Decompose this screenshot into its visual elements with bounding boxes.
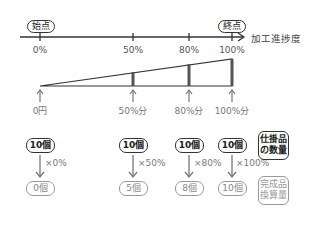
tick-label-80: 80% <box>179 45 199 55</box>
legend-wip-line1: 仕掛品 <box>260 134 287 145</box>
equivalent-units-100: 10個 <box>218 181 247 196</box>
up-arrow-icons <box>37 90 235 102</box>
cost-label-50: 50%分 <box>118 104 147 117</box>
legend-equivalent-units: 完成品 換算量 <box>258 176 289 205</box>
equivalent-units-0: 0個 <box>26 181 55 196</box>
multiplier-50: ×50% <box>138 158 166 168</box>
wip-quantity-50: 10個 <box>119 138 148 153</box>
cost-bar-50 <box>132 72 135 86</box>
wip-quantity-80: 10個 <box>175 138 204 153</box>
tick-label-50: 50% <box>123 45 143 55</box>
legend-wip-quantity: 仕掛品 の数量 <box>258 131 289 160</box>
legend-equiv-line2: 換算量 <box>260 190 287 201</box>
equivalent-units-80: 8個 <box>175 181 204 196</box>
legend-equiv-line1: 完成品 <box>260 179 287 190</box>
cost-triangle <box>40 59 232 86</box>
axis-title: 加工進捗度 <box>251 31 301 45</box>
multiplier-80: ×80% <box>194 158 222 168</box>
cost-bar-100 <box>231 59 234 86</box>
legend-wip-line2: の数量 <box>260 145 287 156</box>
equivalent-units-50: 5個 <box>119 181 148 196</box>
wip-quantity-100: 10個 <box>218 138 247 153</box>
cost-label-100: 100%分 <box>215 104 250 117</box>
end-point-label: 終点 <box>218 20 246 33</box>
cost-label-0: 0円 <box>33 104 48 117</box>
wip-quantity-0: 10個 <box>26 138 55 153</box>
start-point-label: 始点 <box>27 20 55 33</box>
tick-label-100: 100% <box>219 45 245 55</box>
cost-bar-80 <box>188 64 191 86</box>
cost-label-80: 80%分 <box>174 104 203 117</box>
multiplier-0: ×0% <box>45 158 67 168</box>
tick-label-0: 0% <box>33 45 47 55</box>
